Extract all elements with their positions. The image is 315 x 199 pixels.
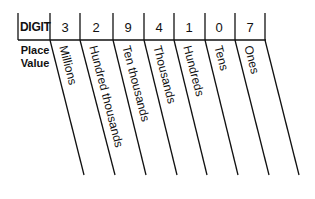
digit-ones: 7 xyxy=(235,20,265,35)
place-value-header-line-2: Value xyxy=(18,57,52,70)
digit-hundred-thousands: 2 xyxy=(81,20,111,35)
digit-thousands: 4 xyxy=(144,20,174,35)
place-value-chart: DIGIT Place Value 3 2 9 4 1 0 7 Millions… xyxy=(0,0,315,199)
place-value-header-line-1: Place xyxy=(18,44,52,57)
digit-ten-thousands: 9 xyxy=(113,20,143,35)
digit-tens: 0 xyxy=(204,20,234,35)
digit-row-header: DIGIT xyxy=(20,20,51,34)
place-value-header: Place Value xyxy=(18,44,52,70)
digit-hundreds: 1 xyxy=(174,20,204,35)
digit-millions: 3 xyxy=(50,20,80,35)
